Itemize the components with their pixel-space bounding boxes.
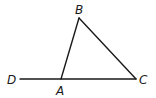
- label-b: B: [75, 3, 83, 17]
- label-a: A: [55, 84, 64, 98]
- segment-ab: [61, 18, 79, 79]
- segment-bc: [79, 18, 136, 79]
- label-d: D: [7, 73, 16, 87]
- triangle-diagram: B D A C: [0, 0, 156, 98]
- label-c: C: [139, 73, 148, 87]
